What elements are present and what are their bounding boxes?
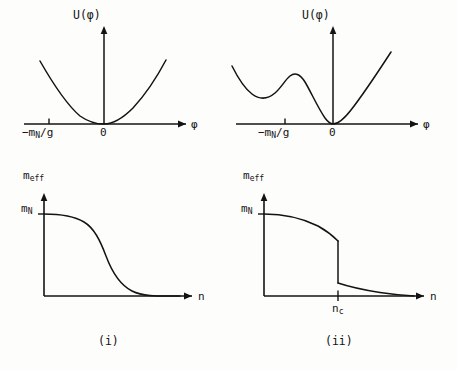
- potential-curve-single-well: [40, 60, 166, 124]
- y-axis-arrowhead: [261, 193, 268, 201]
- origin-label: 0: [329, 127, 336, 138]
- x-axis-arrowhead: [416, 293, 424, 300]
- effective-mass-curve-smooth: [44, 214, 180, 296]
- panel-potential-double-well: U(φ) φ 0 −mN/g: [228, 0, 457, 152]
- x-axis-arrowhead: [178, 121, 186, 128]
- potential-curve-double-well: [232, 52, 391, 124]
- y-axis-arrowhead: [101, 26, 108, 34]
- panel-caption-i: (i): [98, 336, 119, 348]
- y-axis-label-meff-main: m: [23, 169, 30, 182]
- y-axis-label-meff-sub: eff: [30, 174, 44, 183]
- tick-label-tail: /g: [40, 126, 53, 139]
- tick-label-head: −m: [258, 126, 271, 139]
- x-tick-label-minus-mn-over-g: −mN/g: [22, 127, 53, 140]
- x-axis-arrowhead: [410, 121, 418, 128]
- y-tick-label-mn: mN: [21, 203, 32, 216]
- y-axis-label-meff-sub: eff: [250, 174, 264, 183]
- y-axis-label-meff: meff: [23, 170, 44, 183]
- y-tick-label-mn-main: m: [241, 202, 248, 215]
- x-axis-label-phi: φ: [191, 119, 198, 130]
- y-axis-arrowhead: [41, 193, 48, 201]
- figure-canvas: U(φ) φ 0 −mN/g U(φ) φ 0 −mN/g: [0, 0, 457, 371]
- y-tick-label-mn: mN: [241, 203, 252, 216]
- x-axis-arrowhead: [184, 293, 192, 300]
- y-axis-label-meff-main: m: [243, 169, 250, 182]
- tick-label-tail: /g: [276, 126, 289, 139]
- y-axis-label-u-phi: U(φ): [73, 10, 101, 22]
- y-axis-label-u-phi: U(φ): [302, 10, 330, 22]
- x-tick-label-nc-main: n: [332, 302, 339, 315]
- y-tick-label-mn-sub: N: [248, 207, 253, 216]
- panel-effective-mass-smooth: meff mN n (i): [0, 152, 228, 371]
- origin-label: 0: [100, 127, 107, 138]
- tick-label-head: −m: [22, 126, 35, 139]
- x-axis-label-n: n: [430, 291, 437, 302]
- y-axis-arrowhead: [330, 26, 337, 34]
- x-tick-label-minus-mn-over-g: −mN/g: [258, 127, 289, 140]
- effective-mass-lower-branch: [338, 283, 414, 296]
- panel-potential-single-well: U(φ) φ 0 −mN/g: [0, 0, 228, 152]
- panel-caption-ii: (ii): [325, 336, 353, 348]
- y-tick-label-mn-main: m: [21, 202, 28, 215]
- x-axis-label-phi: φ: [423, 119, 430, 130]
- panel-effective-mass-first-order: meff mN nc n (ii): [228, 152, 457, 371]
- y-axis-label-meff: meff: [243, 170, 264, 183]
- x-tick-label-nc-sub: c: [339, 307, 344, 316]
- x-axis-label-n: n: [198, 291, 205, 302]
- x-tick-label-nc: nc: [332, 303, 343, 316]
- y-tick-label-mn-sub: N: [28, 207, 33, 216]
- effective-mass-upper-branch: [264, 214, 338, 241]
